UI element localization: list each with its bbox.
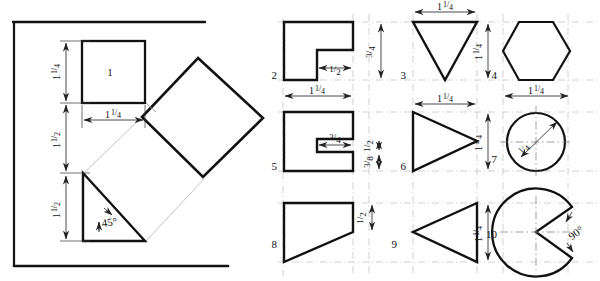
figure-6-number: 6: [401, 160, 407, 172]
figure-5-number: 5: [272, 160, 278, 172]
figure-7-number: 7: [492, 153, 498, 165]
left-square-label: 1: [107, 66, 113, 78]
figure-8-number: 8: [272, 238, 278, 250]
angle-label-45: 45°: [101, 215, 118, 229]
figure-3-number: 3: [401, 69, 407, 81]
canvas-background: [0, 0, 600, 281]
figure-9-number: 9: [392, 238, 398, 250]
figure-10-number: 10: [486, 228, 498, 240]
figure-2-number: 2: [272, 69, 278, 81]
technical-drawing-svg: 1 45° 11/4 11/2: [0, 0, 600, 281]
figure-4-number: 4: [492, 69, 498, 81]
drawing-canvas: 1 45° 11/4 11/2: [0, 0, 600, 281]
